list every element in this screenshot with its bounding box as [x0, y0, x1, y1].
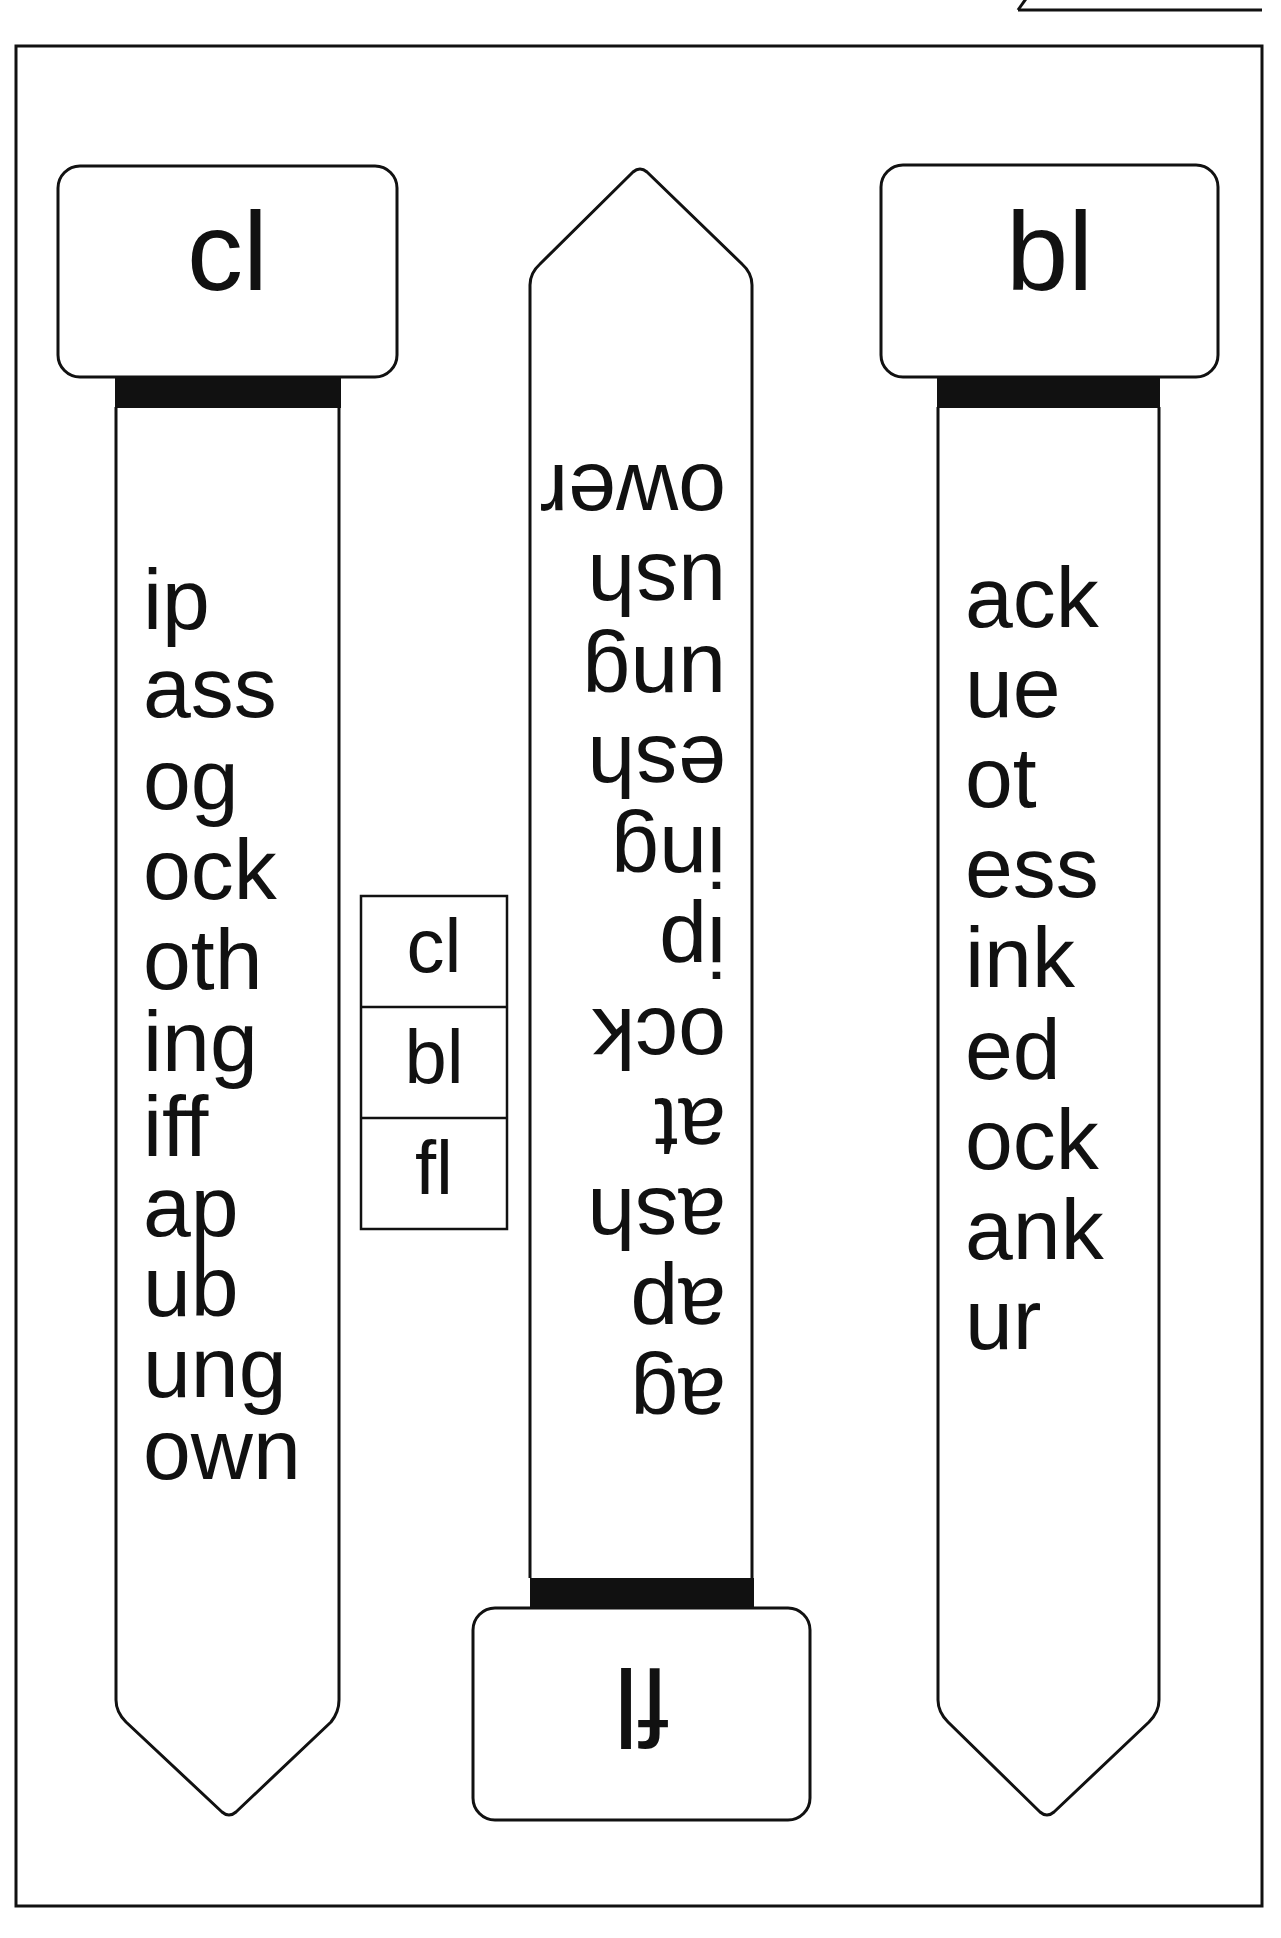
word-item: ock — [143, 826, 277, 912]
strip-bl-band — [937, 377, 1160, 408]
word-item: ash — [587, 1176, 726, 1262]
word-item: ack — [965, 554, 1099, 640]
strip-cl-band — [115, 377, 341, 408]
word-item: ub — [143, 1243, 239, 1329]
word-item: ink — [965, 914, 1075, 1000]
word-item: ank — [965, 1186, 1104, 1272]
word-item: own — [143, 1406, 301, 1492]
word-item: ung — [143, 1324, 287, 1410]
word-item: ock — [965, 1096, 1099, 1182]
legend-cell-bl: bl — [361, 1001, 507, 1112]
blend-legend: cl bl fl — [361, 896, 507, 1229]
strip-fl-word-area: ag ap ash at ock ip ing esh ung ush ower — [530, 420, 754, 1480]
word-item: og — [143, 736, 239, 822]
word-item: ock — [592, 996, 726, 1082]
word-item: iff — [143, 1083, 208, 1169]
word-item: ess — [965, 824, 1099, 910]
strip-cl-header-label: cl — [58, 196, 397, 308]
word-item: ap — [630, 1266, 726, 1352]
word-item: ass — [143, 644, 277, 730]
word-item: ing — [143, 998, 258, 1084]
word-item: ur — [965, 1276, 1041, 1362]
word-item: ed — [965, 1006, 1061, 1092]
word-item: ung — [583, 634, 727, 720]
legend-cell-fl: fl — [361, 1112, 507, 1223]
word-item: ip — [143, 556, 210, 642]
word-item: at — [654, 1086, 726, 1172]
corner-banner-line — [1018, 0, 1262, 10]
legend-cell-cl: cl — [361, 890, 507, 1001]
word-item: ush — [587, 542, 726, 628]
word-item: esh — [587, 724, 726, 810]
word-item: ing — [611, 814, 726, 900]
word-item: ower — [540, 452, 726, 538]
strip-bl-header-label: bl — [881, 196, 1218, 308]
word-item: ip — [659, 904, 726, 990]
word-item: ue — [965, 644, 1061, 730]
word-item: oth — [143, 916, 263, 1002]
word-item: ap — [143, 1163, 239, 1249]
strip-fl-header-label: fl — [473, 1650, 810, 1762]
word-item: ot — [965, 734, 1037, 820]
strip-fl-band — [530, 1578, 754, 1609]
word-item: ag — [630, 1356, 726, 1442]
